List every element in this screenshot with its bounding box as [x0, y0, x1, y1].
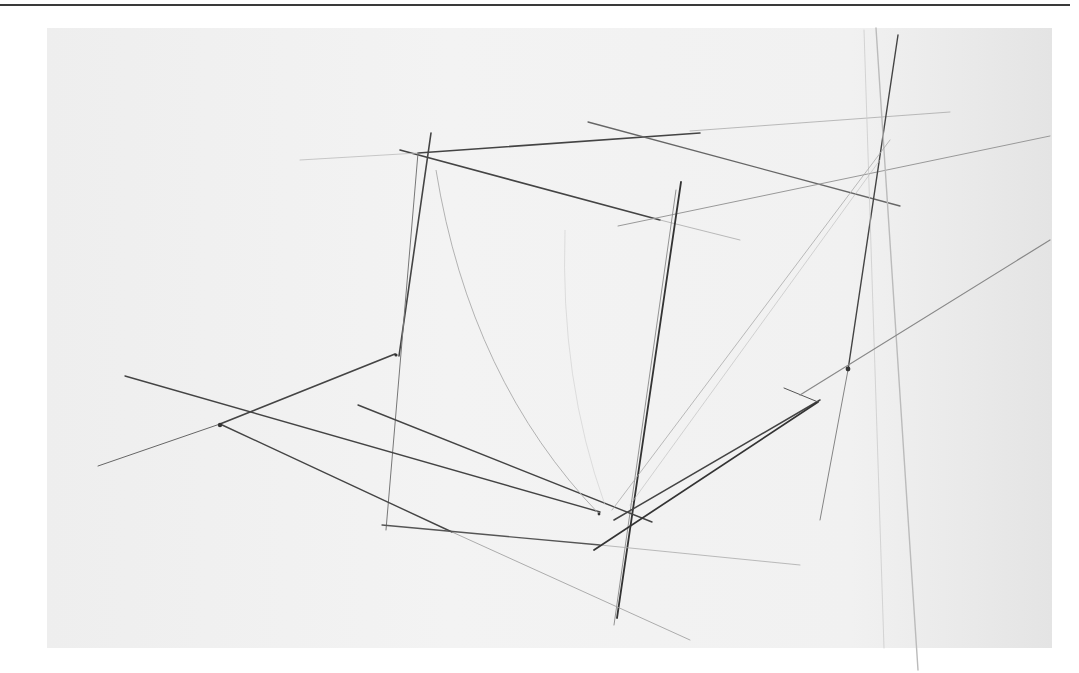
pencil-line [876, 28, 918, 670]
pencil-strokes [98, 28, 1050, 670]
vertex-marks [218, 353, 851, 515]
perspective-box-sketch [0, 0, 1079, 673]
pencil-line [300, 153, 418, 160]
pencil-line [864, 30, 884, 648]
pencil-line [382, 525, 600, 545]
vertex-dot [846, 367, 851, 372]
pencil-line [617, 182, 681, 618]
vertex-dot [394, 353, 397, 356]
pencil-curve [436, 170, 600, 515]
pencil-line [594, 402, 818, 550]
pencil-line [614, 190, 676, 625]
pencil-line [612, 140, 890, 510]
pencil-line [220, 424, 452, 532]
construction-curves [436, 170, 605, 515]
pencil-line [660, 220, 740, 240]
pencil-line [618, 136, 1050, 226]
pencil-line [358, 405, 652, 522]
vertex-dot [218, 423, 222, 427]
pencil-line [614, 400, 820, 520]
pencil-line [630, 160, 880, 505]
pencil-line [800, 240, 1050, 395]
pencil-line [690, 112, 950, 131]
pencil-curve [565, 230, 606, 505]
pencil-line [125, 376, 600, 512]
pencil-line [600, 545, 800, 565]
pencil-line [452, 532, 690, 640]
pencil-line [220, 354, 395, 424]
pencil-line [386, 153, 418, 530]
pencil-line [98, 424, 220, 466]
vertex-dot [598, 513, 601, 516]
pencil-line [820, 370, 848, 520]
pencil-line [418, 133, 700, 153]
pencil-line [588, 122, 900, 206]
